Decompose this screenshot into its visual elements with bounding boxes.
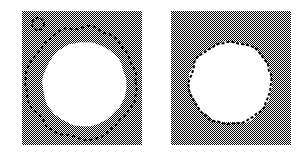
figure-canvas: [0, 0, 307, 152]
segmentation-panel-initial: [22, 11, 142, 145]
segmentation-panel-converged: [171, 11, 291, 145]
